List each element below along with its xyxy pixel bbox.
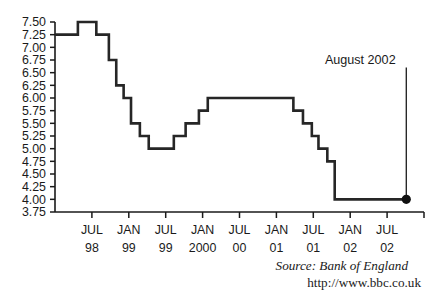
x-axis-group: JUL98JAN99JUL99JAN2000JUL00JAN01JUL01JAN… <box>55 212 424 255</box>
x-tick-month-label: JUL <box>228 223 250 237</box>
x-tick-year-label: 02 <box>343 241 357 255</box>
x-tick-year-label: 01 <box>306 241 320 255</box>
x-tick-labels: JUL98JAN99JUL99JAN2000JUL00JAN01JUL01JAN… <box>81 223 398 255</box>
x-tick-year-label: 00 <box>233 241 247 255</box>
x-tick-year-label: 2000 <box>189 241 217 255</box>
y-axis-group: 7.507.257.006.756.506.256.005.755.505.25… <box>22 15 55 219</box>
x-tick-month-label: JUL <box>81 223 103 237</box>
y-tick-label: 3.75 <box>22 205 46 219</box>
source-url: http://www.bbc.co.uk <box>307 275 421 290</box>
x-tick-year-label: 98 <box>85 241 99 255</box>
annotation-label: August 2002 <box>325 53 396 67</box>
x-tick-month-label: JUL <box>155 223 177 237</box>
x-tick-month-label: JAN <box>338 223 361 237</box>
x-tick-month-label: JUL <box>302 223 324 237</box>
footer-group: Source: Bank of England http://www.bbc.c… <box>276 258 422 290</box>
endpoint-marker <box>402 195 411 204</box>
x-tick-marks <box>92 212 424 218</box>
y-tick-labels: 7.507.257.006.756.506.256.005.755.505.25… <box>22 15 46 219</box>
x-tick-month-label: JAN <box>117 223 140 237</box>
source-attribution: Source: Bank of England <box>276 258 409 273</box>
x-tick-year-label: 99 <box>159 241 173 255</box>
x-tick-year-label: 01 <box>270 241 284 255</box>
x-tick-year-label: 02 <box>380 241 394 255</box>
chart-canvas: 7.507.257.006.756.506.256.005.755.505.25… <box>0 0 434 292</box>
plot-series-group <box>55 22 406 199</box>
x-tick-year-label: 99 <box>122 241 136 255</box>
rate-step-line <box>55 22 406 199</box>
x-tick-month-label: JUL <box>376 223 398 237</box>
x-tick-month-label: JAN <box>265 223 288 237</box>
interest-rate-step-chart: 7.507.257.006.756.506.256.005.755.505.25… <box>0 0 434 292</box>
annotation-group: August 2002 <box>325 53 411 204</box>
x-tick-month-label: JAN <box>191 223 214 237</box>
